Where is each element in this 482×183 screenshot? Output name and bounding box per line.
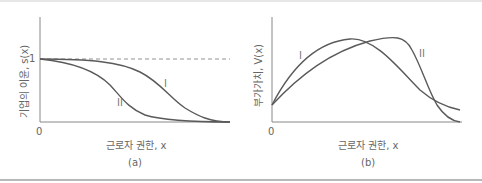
bottom-border [0,179,482,181]
curve-label-a-I: I [164,78,167,89]
curve-a-II [40,59,230,122]
caption-b: (b) [361,157,375,168]
origin-label-a: 0 [36,126,42,137]
curve-label-a-II: II [117,97,123,108]
curve-label-b-I: I [299,50,302,61]
curve-label-b-II: II [419,48,425,59]
charts-canvas [0,0,482,183]
origin-label-b: 0 [268,126,274,137]
y-axis-label-b: 부가가치, V(x) [250,31,265,121]
curve-a-I [40,59,230,122]
x-axis-label-a: 근로자 권한, x [106,137,166,152]
x-axis-label-b: 근로자 권한, x [338,137,398,152]
y-axis-label-a: 기업의 이윤, s(x) [16,37,31,127]
panel-b-axes [272,17,462,122]
caption-a: (a) [128,157,142,168]
